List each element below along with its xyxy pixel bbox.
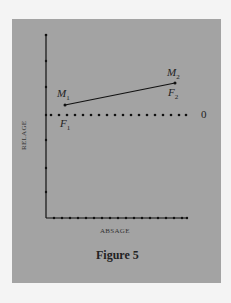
zero-dotted-line [50, 114, 188, 117]
label-m1: M1 [57, 87, 70, 102]
zero-label: 0 [201, 108, 207, 120]
point-m1 [64, 104, 67, 107]
m1-m2-segment [65, 83, 175, 105]
figure-caption: Figure 5 [96, 248, 139, 263]
y-axis-label: RELAGE [20, 121, 28, 150]
label-f1: F1 [60, 117, 70, 132]
label-f2: F2 [168, 86, 178, 101]
label-m2: M2 [167, 66, 180, 81]
x-axis-label: ABSAGE [100, 227, 130, 235]
point-m2 [174, 82, 177, 85]
